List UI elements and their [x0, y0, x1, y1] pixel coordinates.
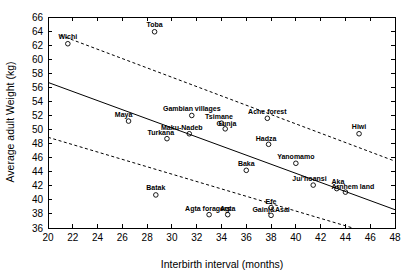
x-tick-label: 28	[142, 232, 154, 243]
y-tick-label: 52	[32, 110, 44, 121]
x-tick-label: 26	[117, 232, 129, 243]
figure-background	[0, 0, 413, 276]
y-tick-label: 40	[32, 194, 44, 205]
x-tick-label: 48	[389, 232, 401, 243]
data-point-label: Ju/'hoansi	[292, 175, 326, 182]
y-tick-label: 42	[32, 180, 44, 191]
y-tick-label: 62	[32, 40, 44, 51]
data-point-label: Maya	[115, 111, 133, 119]
x-tick-label: 42	[315, 232, 327, 243]
y-tick-label: 36	[32, 223, 44, 234]
data-point-label: Turkana	[147, 129, 174, 136]
data-point-label: Gambian villages	[163, 105, 221, 113]
data-point-label: Efe	[266, 198, 277, 205]
x-tick-label: 24	[92, 232, 104, 243]
y-tick-label: 44	[32, 166, 44, 177]
data-point-label: Wichi	[59, 33, 78, 40]
data-point-label: Ache forest	[248, 108, 287, 115]
y-tick-label: 56	[32, 82, 44, 93]
x-tick-label: 36	[241, 232, 253, 243]
data-point-label: Toba	[146, 21, 162, 28]
y-axis-title: Average adult Weight (kg)	[4, 61, 16, 182]
x-tick-label: 20	[42, 232, 54, 243]
x-tick-label: 40	[290, 232, 302, 243]
y-tick-label: 46	[32, 152, 44, 163]
y-tick-label: 50	[32, 124, 44, 135]
x-tick-label: 38	[266, 232, 278, 243]
y-tick-label: 54	[32, 96, 44, 107]
y-tick-label: 66	[32, 12, 44, 23]
x-tick-label: 30	[166, 232, 178, 243]
data-point-label: Baka	[238, 160, 255, 167]
y-tick-label: 64	[32, 26, 44, 37]
data-point-label: Hiwi	[352, 123, 366, 130]
data-point-label: Yanomamo	[277, 153, 314, 160]
data-point-label: Gainj&Asai	[252, 206, 289, 214]
data-point-label: Gunja	[217, 120, 237, 128]
data-point-label: Batak	[146, 184, 165, 191]
y-tick-label: 60	[32, 54, 44, 65]
scatter-plot-figure: TobaWichiGambian villagesAche forestMaya…	[0, 0, 413, 276]
y-tick-label: 38	[32, 208, 44, 219]
data-point-label: Agta	[220, 205, 236, 213]
x-axis-title: Interbirth interval (months)	[161, 258, 284, 270]
y-tick-label: 58	[32, 68, 44, 79]
x-tick-label: 32	[191, 232, 203, 243]
data-point-label: Arnhem land	[331, 183, 374, 190]
x-tick-label: 34	[216, 232, 228, 243]
plot-canvas: TobaWichiGambian villagesAche forestMaya…	[0, 0, 413, 276]
x-tick-label: 22	[67, 232, 79, 243]
data-point-label: Hadza	[256, 135, 277, 142]
x-tick-label: 46	[365, 232, 377, 243]
y-tick-label: 48	[32, 138, 44, 149]
x-tick-label: 44	[340, 232, 352, 243]
